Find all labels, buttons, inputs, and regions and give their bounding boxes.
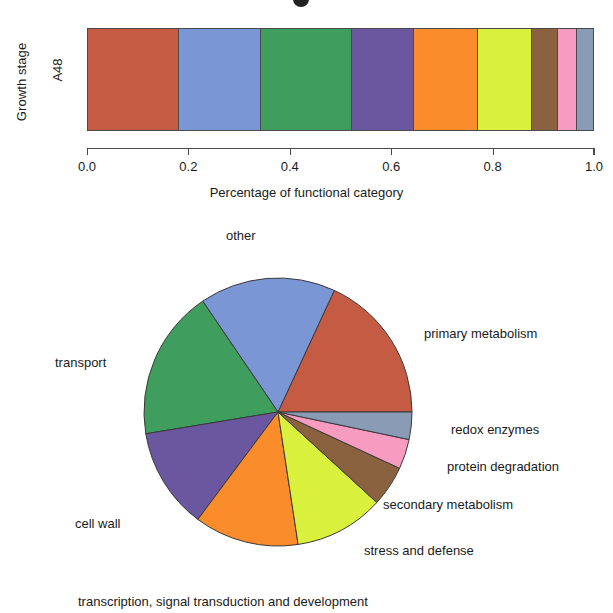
pie-chart: primary metabolismothertransportcell wal… — [0, 210, 613, 613]
stacked-bar-track — [87, 28, 594, 131]
pie-label-5: stress and defense — [364, 543, 474, 558]
bar-y-tick-label-a48: A48 — [50, 40, 68, 100]
pie-label-8: redox enzymes — [451, 422, 539, 437]
bar-x-tick-label-1: 0.2 — [168, 159, 208, 174]
pie-svg — [0, 210, 613, 613]
bar-y-axis-title: Growth stage — [14, 32, 38, 132]
pie-label-7: protein degradation — [447, 459, 559, 474]
bar-x-tick-0 — [87, 148, 88, 155]
bar-segment-1 — [179, 29, 262, 130]
bar-segment-0 — [88, 29, 179, 130]
bar-segment-6 — [532, 29, 557, 130]
pie-label-3: cell wall — [75, 516, 121, 531]
bar-x-tick-label-2: 0.4 — [270, 159, 310, 174]
bar-x-tick-4 — [493, 148, 494, 155]
pie-label-1: other — [226, 228, 256, 243]
bar-x-tick-2 — [290, 148, 291, 155]
bar-segment-5 — [478, 29, 533, 130]
bar-x-tick-label-5: 1.0 — [574, 159, 613, 174]
pie-label-0: primary metabolism — [424, 326, 537, 341]
pie-label-4: transcription, signal transduction and d… — [78, 594, 368, 609]
figure-root: Growth stage A48 0.00.20.40.60.81.0 Perc… — [0, 0, 613, 613]
bar-segment-7 — [558, 29, 577, 130]
bar-x-tick-3 — [391, 148, 392, 155]
stacked-bar-chart: Growth stage A48 0.00.20.40.60.81.0 Perc… — [0, 0, 613, 200]
bar-segment-2 — [261, 29, 352, 130]
bar-x-tick-1 — [188, 148, 189, 155]
bar-segment-3 — [352, 29, 414, 130]
bar-x-tick-5 — [594, 148, 595, 155]
bar-x-tick-label-3: 0.6 — [371, 159, 411, 174]
bar-segment-8 — [577, 29, 593, 130]
bar-x-tick-label-4: 0.8 — [473, 159, 513, 174]
bar-x-axis-title: Percentage of functional category — [0, 185, 613, 200]
bar-x-axis-line — [87, 148, 594, 149]
pie-label-2: transport — [55, 355, 106, 370]
pie-label-6: secondary metabolism — [383, 497, 513, 512]
bar-x-tick-label-0: 0.0 — [67, 159, 107, 174]
bar-segment-4 — [414, 29, 478, 130]
